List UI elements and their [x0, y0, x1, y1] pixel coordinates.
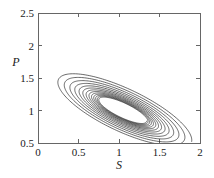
- x-tick-label: 1: [116, 146, 122, 158]
- x-tick-label: 0.5: [72, 146, 86, 158]
- x-axis-title: S: [116, 158, 122, 172]
- plot-canvas: 00.511.520.511.522.5 P S: [0, 0, 214, 178]
- x-tick-label: 1.5: [153, 146, 167, 158]
- y-tick-label: 1.5: [20, 72, 34, 84]
- y-tick-label: 1: [29, 105, 35, 117]
- x-tick-label: 2: [197, 146, 203, 158]
- y-tick-label: 0.5: [20, 137, 34, 149]
- y-tick-label: 2: [29, 40, 35, 52]
- y-tick-label: 2.5: [20, 7, 34, 19]
- x-tick-label: 0: [35, 146, 41, 158]
- y-axis-title: P: [11, 55, 20, 69]
- phase-portrait-figure: 00.511.520.511.522.5 P S: [0, 0, 214, 178]
